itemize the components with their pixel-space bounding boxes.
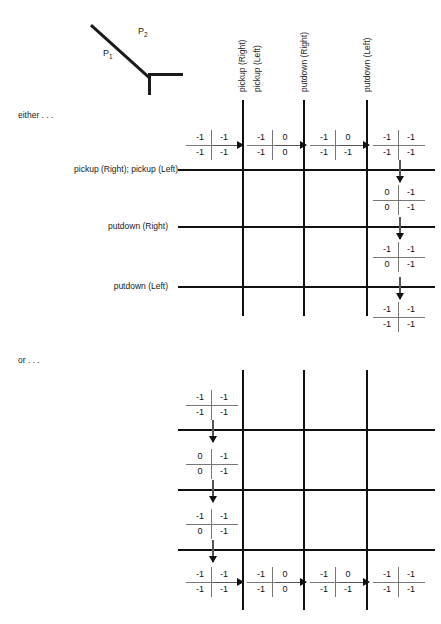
nail-marker-down-e3 (325, 157, 347, 170)
row-label-putdown-left: putdown (Left) (43, 281, 168, 291)
section-label-either: either . . . (18, 110, 53, 120)
grid-hline-putdown-right (178, 226, 435, 228)
transition-arrow-down (399, 277, 401, 299)
matrix-cell: -1 (213, 568, 235, 581)
matrix-e5: 0 -1 0 -1 (375, 186, 423, 214)
transition-arrow-down (399, 160, 401, 182)
matrix-cell: -1 (213, 406, 235, 419)
matrix-cell: -1 (189, 583, 211, 596)
matrix-cell: 0 (337, 131, 359, 144)
matrix-cell: -1 (250, 568, 272, 581)
matrix-cell: -1 (376, 318, 398, 331)
matrix-cell: -1 (400, 186, 422, 199)
grid-hline-lower-3 (178, 549, 435, 551)
matrix-cell: 0 (274, 131, 296, 144)
matrix-cell: -1 (400, 243, 422, 256)
matrix-cell: -1 (400, 258, 422, 271)
matrix-e7: -1 -1 -1 -1 (375, 303, 423, 331)
matrix-o1: -1 -1 -1 -1 (188, 391, 236, 419)
column-header-putdown-left: putdown (Left) (362, 38, 372, 92)
column-header-pickup-left: pickup (Left) (252, 45, 262, 92)
matrix-cell: -1 (189, 568, 211, 581)
matrix-cell: -1 (313, 568, 335, 581)
matrix-e4: -1 -1 -1 -1 (375, 131, 423, 159)
matrix-cell: -1 (400, 583, 422, 596)
matrix-cell: 0 (189, 450, 211, 463)
grid-hline-putdown-left (178, 286, 435, 288)
column-header-putdown-right: putdown (Right) (299, 32, 309, 92)
matrix-cell: -1 (400, 201, 422, 214)
two-link-arm-diagram: P1 P2 (84, 12, 192, 90)
matrix-cell: -1 (400, 568, 422, 581)
grid-vline-1 (242, 100, 244, 316)
matrix-cell: -1 (213, 131, 235, 144)
transition-arrow-down (212, 480, 214, 502)
matrix-cell: -1 (250, 583, 272, 596)
matrix-cell: -1 (213, 583, 235, 596)
row-label-pickup-right-then-left: pickup (Right); pickup (Left) (43, 164, 178, 174)
matrix-cell: -1 (189, 510, 211, 523)
transition-arrow-right (213, 145, 243, 147)
grid-hline-lower-1 (178, 429, 435, 431)
row-label-putdown-right: putdown (Right) (43, 221, 168, 231)
matrix-cell: -1 (213, 391, 235, 404)
matrix-cell: -1 (250, 131, 272, 144)
matrix-cell: -1 (313, 583, 335, 596)
column-header-pickup-right: pickup (Right) (237, 40, 247, 92)
grid-vline-2 (303, 100, 305, 316)
matrix-cell: -1 (376, 568, 398, 581)
matrix-cell: -1 (189, 406, 211, 419)
transition-arrow-right (339, 145, 369, 147)
transition-arrow-right (339, 582, 369, 584)
transition-arrow-down (212, 540, 214, 562)
matrix-cell: -1 (189, 146, 211, 159)
matrix-cell: -1 (189, 391, 211, 404)
matrix-cell: 0 (376, 258, 398, 271)
grid-hline-lower-2 (178, 489, 435, 491)
matrix-e6: -1 -1 0 -1 (375, 243, 423, 271)
link-vertical-stub (148, 73, 151, 95)
matrix-cell: 0 (189, 525, 211, 538)
matrix-cell: 0 (189, 465, 211, 478)
matrix-cell: -1 (313, 131, 335, 144)
link-p2-horizontal-segment (148, 73, 183, 76)
matrix-cell: 0 (274, 568, 296, 581)
matrix-cell: -1 (376, 583, 398, 596)
matrix-cell: -1 (376, 303, 398, 316)
diagram-canvas: P1 P2 pickup (Right) pickup (Left) putdo… (0, 0, 441, 624)
matrix-cell: 0 (376, 201, 398, 214)
matrix-cell: -1 (400, 131, 422, 144)
transition-arrow-right (276, 582, 306, 584)
matrix-o7: -1 -1 -1 -1 (375, 568, 423, 596)
section-label-or: or . . . (18, 355, 40, 365)
nail-marker-down-e2 (262, 157, 284, 170)
matrix-cell: 0 (376, 186, 398, 199)
transition-arrow-down (399, 217, 401, 239)
matrix-cell: -1 (376, 243, 398, 256)
matrix-cell: -1 (400, 318, 422, 331)
matrix-cell: -1 (213, 146, 235, 159)
matrix-cell: -1 (189, 131, 211, 144)
transition-arrow-right (213, 582, 243, 584)
matrix-cell: -1 (376, 131, 398, 144)
transition-arrow-right (276, 145, 306, 147)
nail-marker-right-o3 (229, 513, 242, 535)
matrix-cell: -1 (337, 583, 359, 596)
label-p1: P1 (103, 48, 113, 60)
grid-vline-3 (366, 100, 368, 316)
label-p2: P2 (138, 26, 148, 38)
matrix-cell: -1 (376, 146, 398, 159)
transition-arrow-down (212, 420, 214, 442)
matrix-cell: -1 (400, 146, 422, 159)
grid-hline-pickup (178, 169, 435, 171)
matrix-cell: 0 (337, 568, 359, 581)
matrix-cell: 0 (274, 583, 296, 596)
matrix-cell: -1 (400, 303, 422, 316)
nail-marker-right-o2 (229, 453, 242, 475)
